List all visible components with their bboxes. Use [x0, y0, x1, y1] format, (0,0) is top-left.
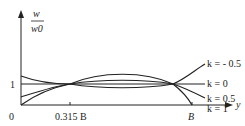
chart-plot: w w0 1 0 0.315 B B y k = - 0.5 k = 0 k =…	[0, 0, 245, 126]
y-label-denominator: w0	[31, 23, 43, 34]
series-label-k-1: k = 1	[207, 103, 228, 114]
series-label-k-0: k = 0	[207, 78, 228, 89]
y-tick-label-1: 1	[10, 79, 15, 90]
x-tick-label-B: B	[188, 111, 194, 122]
origin-label: 0	[9, 111, 14, 122]
x-tick-label-0315B: 0.315 B	[55, 111, 87, 122]
y-axis-arrow-icon	[18, 10, 24, 18]
series-label-k-neg-0.5: k = - 0.5	[207, 58, 241, 69]
y-label-numerator: w	[33, 8, 40, 19]
x-axis-label: y	[235, 99, 241, 110]
